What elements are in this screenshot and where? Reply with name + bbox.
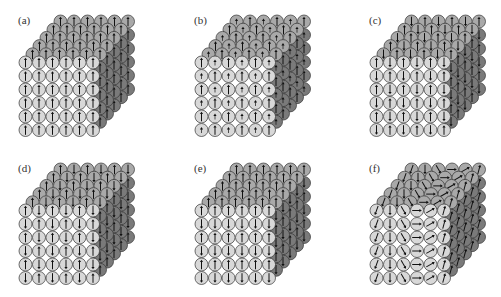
- spin-site: [263, 218, 276, 231]
- spin-site: [424, 218, 437, 231]
- spin-site: [33, 245, 46, 258]
- spin-site: [195, 56, 208, 69]
- spin-site: [424, 56, 437, 69]
- spin-site: [87, 272, 100, 285]
- spin-site: [222, 97, 235, 110]
- spin-site: [222, 245, 235, 258]
- spin-site: [46, 110, 59, 123]
- spin-site: [263, 245, 276, 258]
- spin-site: [19, 56, 32, 69]
- cube-lattice: [167, 0, 334, 148]
- spin-site: [397, 218, 410, 231]
- spin-site: [222, 124, 235, 137]
- spin-site: [438, 245, 451, 258]
- spin-site: [249, 56, 262, 69]
- spin-site: [249, 231, 262, 244]
- spin-site: [370, 110, 383, 123]
- spin-site: [87, 110, 100, 123]
- spin-site: [370, 124, 383, 137]
- spin-site: [384, 204, 397, 217]
- spin-site: [33, 56, 46, 69]
- spin-site: [209, 245, 222, 258]
- cube-lattice: [0, 148, 167, 297]
- spin-site: [73, 83, 86, 96]
- spin-site: [424, 258, 437, 271]
- spin-site: [73, 231, 86, 244]
- spin-site: [397, 245, 410, 258]
- spin-site: [438, 70, 451, 83]
- spin-site: [263, 110, 276, 123]
- spin-site: [60, 70, 73, 83]
- cube-lattice: [0, 0, 167, 148]
- spin-site: [33, 272, 46, 285]
- spin-site: [384, 110, 397, 123]
- spin-site: [73, 272, 86, 285]
- spin-site: [263, 83, 276, 96]
- spin-site: [249, 245, 262, 258]
- spin-site: [397, 70, 410, 83]
- spin-site: [87, 231, 100, 244]
- panel-a-ferromagnetic: (a): [0, 0, 167, 148]
- spin-site: [397, 97, 410, 110]
- spin-site: [46, 218, 59, 231]
- spin-site: [411, 272, 424, 285]
- spin-site: [209, 272, 222, 285]
- spin-site: [438, 218, 451, 231]
- spin-site: [87, 245, 100, 258]
- spin-site: [87, 258, 100, 271]
- spin-site: [438, 56, 451, 69]
- spin-site: [87, 70, 100, 83]
- panel-e-layered-afm: (e): [167, 148, 334, 296]
- spin-site: [222, 70, 235, 83]
- spin-site: [438, 231, 451, 244]
- spin-site: [195, 272, 208, 285]
- spin-site: [438, 110, 451, 123]
- spin-site: [73, 204, 86, 217]
- spin-site: [249, 204, 262, 217]
- spin-site: [209, 97, 222, 110]
- spin-site: [384, 231, 397, 244]
- spin-site: [60, 258, 73, 271]
- spin-site: [46, 83, 59, 96]
- spin-site: [370, 83, 383, 96]
- spin-site: [249, 272, 262, 285]
- spin-site: [209, 258, 222, 271]
- spin-site: [411, 97, 424, 110]
- spin-site: [73, 97, 86, 110]
- spin-site: [384, 56, 397, 69]
- spin-site: [60, 124, 73, 137]
- spin-site: [46, 97, 59, 110]
- spin-site: [438, 97, 451, 110]
- spin-site: [236, 110, 249, 123]
- spin-site: [60, 83, 73, 96]
- spin-site: [249, 70, 262, 83]
- spin-site: [384, 97, 397, 110]
- spin-site: [19, 83, 32, 96]
- spin-site: [384, 70, 397, 83]
- spin-site: [438, 124, 451, 137]
- spin-site: [33, 124, 46, 137]
- spin-site: [236, 70, 249, 83]
- spin-site: [236, 231, 249, 244]
- spin-site: [19, 218, 32, 231]
- spin-site: [236, 83, 249, 96]
- spin-site: [411, 218, 424, 231]
- spin-site: [195, 231, 208, 244]
- spin-site: [263, 56, 276, 69]
- spin-site: [19, 124, 32, 137]
- spin-site: [370, 218, 383, 231]
- spin-site: [411, 258, 424, 271]
- spin-site: [195, 245, 208, 258]
- spin-site: [222, 258, 235, 271]
- spin-site: [384, 83, 397, 96]
- spin-site: [33, 70, 46, 83]
- spin-site: [370, 231, 383, 244]
- spin-site: [249, 83, 262, 96]
- spin-site: [195, 204, 208, 217]
- spin-site: [209, 83, 222, 96]
- spin-site: [19, 245, 32, 258]
- spin-site: [60, 272, 73, 285]
- spin-site: [19, 272, 32, 285]
- spin-site: [222, 83, 235, 96]
- spin-site: [249, 97, 262, 110]
